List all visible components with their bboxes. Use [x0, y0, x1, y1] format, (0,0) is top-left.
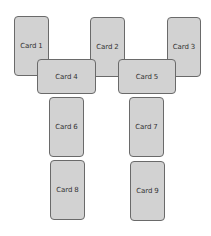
card-7-label: Card 7	[135, 123, 157, 131]
card-1-label: Card 1	[20, 42, 42, 50]
card-7: Card 7	[129, 97, 164, 157]
card-5-label: Card 5	[136, 73, 158, 81]
card-9: Card 9	[130, 161, 165, 221]
card-6-label: Card 6	[55, 123, 77, 131]
card-8-label: Card 8	[56, 186, 78, 194]
card-5: Card 5	[118, 59, 176, 94]
card-6: Card 6	[49, 97, 84, 157]
card-2-label: Card 2	[96, 43, 118, 51]
card-4-label: Card 4	[55, 73, 77, 81]
card-3-label: Card 3	[173, 43, 195, 51]
card-9-label: Card 9	[136, 187, 158, 195]
card-8: Card 8	[50, 160, 85, 220]
card-4: Card 4	[37, 59, 96, 94]
